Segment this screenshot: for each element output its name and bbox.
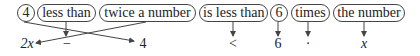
arrow-4 (24, 22, 134, 41)
symbol-less-than: < (226, 36, 240, 52)
symbol-times: · (301, 36, 315, 52)
phrase-less-than: less than (37, 4, 96, 22)
symbol-2x-text: 2x (20, 36, 33, 51)
symbol-minus: − (60, 36, 74, 52)
phrase-6: 6 (270, 4, 288, 22)
symbol-6: 6 (271, 36, 285, 52)
symbol-2x: 2x (16, 36, 38, 52)
phrase-4: 4 (17, 4, 35, 22)
phrase-times: times (291, 4, 330, 22)
symbol-x: x (357, 36, 371, 52)
phrase-the-number: the number (333, 4, 405, 22)
phrase-is-less-than: is less than (199, 4, 268, 22)
phrase-twice-a-number: twice a number (99, 4, 196, 22)
symbol-4: 4 (136, 36, 150, 52)
